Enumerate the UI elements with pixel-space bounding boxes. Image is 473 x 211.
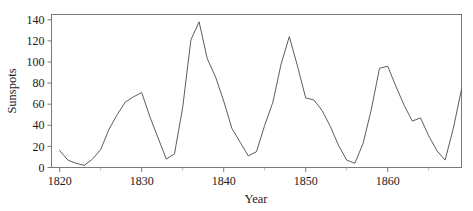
y-tick-label: 120: [27, 34, 45, 48]
y-axis-title: Sunspots: [5, 68, 19, 113]
y-tick-label: 80: [33, 76, 45, 90]
x-tick-label: 1830: [130, 174, 154, 188]
x-axis-title: Year: [244, 192, 268, 206]
y-tick-label: 40: [33, 118, 45, 132]
x-tick-label: 1840: [212, 174, 236, 188]
y-tick-label: 100: [27, 55, 45, 69]
chart-canvas: 020406080100120140 18201830184018501860 …: [0, 0, 473, 211]
x-axis-tick-labels: 18201830184018501860: [48, 174, 400, 188]
y-axis-ticks: [48, 20, 52, 168]
y-axis-tick-labels: 020406080100120140: [27, 13, 45, 175]
y-tick-label: 0: [39, 161, 45, 175]
x-axis-ticks: [60, 168, 388, 173]
sunspots-chart-figure: 020406080100120140 18201830184018501860 …: [0, 0, 473, 211]
x-tick-label: 1820: [48, 174, 72, 188]
y-tick-label: 140: [27, 13, 45, 27]
y-tick-label: 20: [33, 140, 45, 154]
x-tick-label: 1860: [376, 174, 400, 188]
plot-frame: [52, 14, 463, 168]
x-tick-label: 1850: [294, 174, 318, 188]
sunspots-series-line: [60, 22, 462, 166]
y-tick-label: 60: [33, 97, 45, 111]
